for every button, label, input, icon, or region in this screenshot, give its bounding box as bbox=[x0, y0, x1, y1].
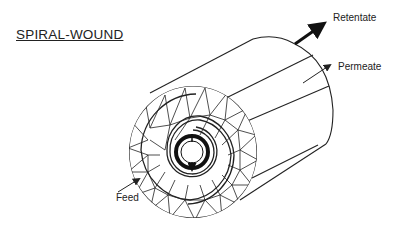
permeate-label: Permeate bbox=[338, 61, 381, 72]
feed-label: Feed bbox=[116, 192, 139, 203]
feed-arrow-icon bbox=[118, 179, 139, 192]
retentate-label: Retentate bbox=[333, 12, 376, 23]
permeate-arrow-icon bbox=[303, 65, 330, 83]
spiral-wound-module-drawing bbox=[0, 0, 405, 227]
spiral-face bbox=[128, 86, 258, 220]
retentate-arrow-icon bbox=[295, 25, 322, 44]
